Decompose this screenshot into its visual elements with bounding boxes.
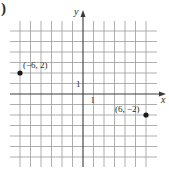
data-point	[143, 112, 148, 117]
y-axis-label: y	[73, 6, 79, 17]
y-axis-arrow-icon	[81, 10, 86, 17]
y-tick-label: 1	[76, 79, 81, 89]
data-point-label: (6, −2)	[115, 104, 140, 114]
coordinate-plane-figure: ) xy11 (−6, 2)(6, −2)	[0, 0, 169, 170]
axes	[10, 10, 166, 167]
coordinate-plane: ) xy11 (−6, 2)(6, −2)	[0, 0, 169, 170]
figure-corner-label: )	[1, 0, 6, 17]
x-tick-label: 1	[91, 95, 96, 105]
data-point	[17, 70, 22, 75]
x-axis-label: x	[160, 94, 166, 105]
axis-labels: xy11	[73, 6, 166, 105]
data-point-label: (−6, 2)	[23, 60, 48, 70]
